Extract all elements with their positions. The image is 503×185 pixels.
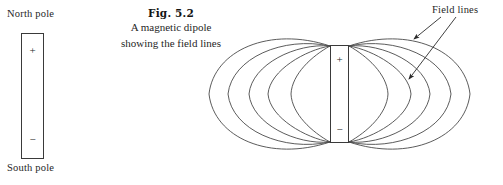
field-line-left-2: [228, 44, 330, 145]
right-bar-magnet: + −: [330, 45, 349, 143]
field-line-right-5: [349, 46, 388, 142]
field-line-left-4: [268, 46, 330, 142]
figure-page: North pole + − South pole Fig. 5.2 A mag…: [0, 0, 503, 185]
field-lines-label: Field lines: [432, 4, 478, 15]
field-lines-arrow-lower: [409, 17, 456, 79]
field-line-left-5: [291, 46, 330, 142]
field-line-right-1: [349, 39, 470, 149]
field-line-right-3: [349, 46, 430, 143]
field-line-right-2: [349, 44, 451, 145]
dipole-field-diagram: + − Field lines: [0, 0, 503, 185]
field-line-left-1: [209, 39, 330, 149]
field-line-group-left: [209, 39, 330, 149]
right-magnet-minus-sign: −: [331, 124, 348, 135]
field-lines-arrow-upper: [414, 17, 441, 39]
field-line-left-3: [249, 46, 330, 143]
annotation-arrows: [409, 17, 456, 79]
right-magnet-plus-sign: +: [331, 54, 348, 65]
field-line-group-right: [349, 39, 470, 149]
field-line-right-4: [349, 46, 411, 142]
field-lines-svg: [0, 0, 503, 185]
